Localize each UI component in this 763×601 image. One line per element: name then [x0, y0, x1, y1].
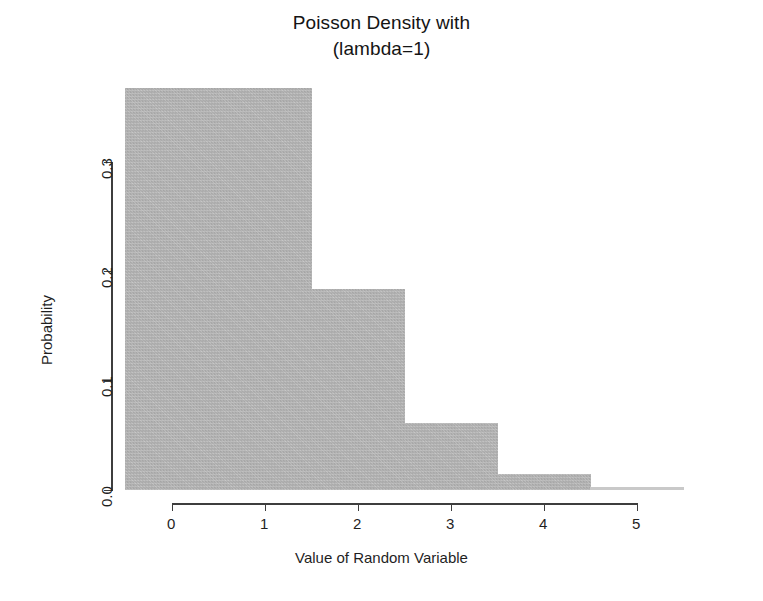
- x-axis-line: [172, 503, 638, 505]
- x-tick-label-5: 5: [632, 515, 640, 532]
- x-tick-label-3: 3: [446, 515, 454, 532]
- plot-area: 0.0 0.1 0.2 0.3 Probability 0 1 2 3 4 5 …: [0, 0, 763, 601]
- bar-4: [497, 474, 591, 490]
- y-axis-title: Probability: [38, 295, 55, 365]
- x-axis-title: Value of Random Variable: [0, 549, 763, 566]
- y-tick-label-1: 0.1: [98, 376, 115, 397]
- bar-0: [125, 88, 219, 490]
- y-tick-label-0: 0.0: [98, 486, 115, 507]
- x-tick-label-2: 2: [353, 515, 361, 532]
- x-tick-2: [358, 503, 360, 511]
- x-tick-3: [451, 503, 453, 511]
- y-tick-label-3: 0.3: [98, 158, 115, 179]
- x-tick-label-4: 4: [539, 515, 547, 532]
- x-tick-4: [544, 503, 546, 511]
- bar-2: [311, 289, 405, 490]
- bar-5: [590, 487, 684, 490]
- bar-3: [404, 423, 498, 490]
- poisson-density-figure: Poisson Density with (lambda=1) 0.0 0.1 …: [0, 0, 763, 601]
- x-tick-1: [265, 503, 267, 511]
- y-axis-line: [111, 162, 113, 491]
- x-tick-label-0: 0: [167, 515, 175, 532]
- x-tick-5: [637, 503, 639, 511]
- x-tick-0: [172, 503, 174, 511]
- y-tick-label-2: 0.2: [98, 267, 115, 288]
- bar-1: [218, 88, 312, 490]
- x-tick-label-1: 1: [260, 515, 268, 532]
